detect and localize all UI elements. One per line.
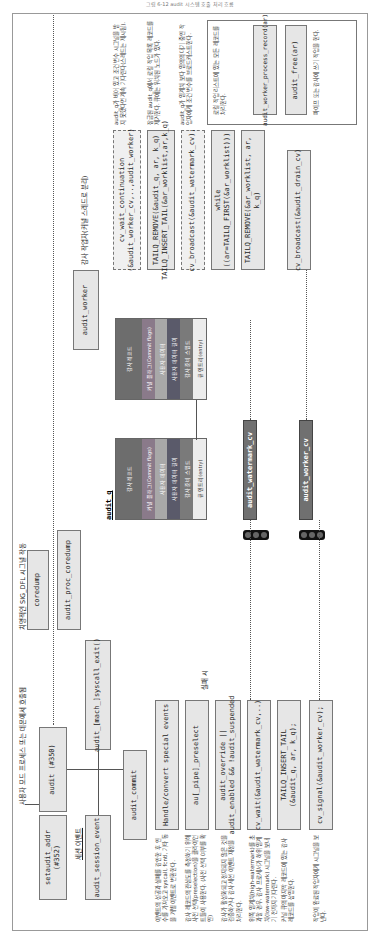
cv-signal-worker-box: cv_signal(&audit_worker_cv); [309,700,333,830]
audit-flow-diagram: 사용자 모드 프로세스 또는 데몬에서 호출됨 setaudit_addr (#… [12,13,368,931]
audit-worker-box: audit_worker [73,270,99,350]
audit-proc-coredump-box: audit_proc_coredump [57,530,81,630]
note-broadcast: audit_q가 임계치 보다 임의의 대기 중인 작업자에게 조건 변수를 브… [179,20,194,125]
tailq-insert-tail-box: TAILQ_INSERT_TAIL (&audit_q, ar, k_q); [277,700,301,830]
note-handle: 이벤트의 성공과 실패를 감안한 후 인수를 가져오고 syscall, fcn… [155,834,177,922]
page-header: 그림 6-12 audit 시스템 호출 처리 흐름 [110,0,270,5]
note-watermark: 위쪽 임계치(high-watermark)를 초과할 경우, 감사 프로세서가… [249,834,279,922]
note-insert: 커널 큐의 마지막 레코드에 있는 감사 레코드를 삽입한다. [281,834,296,922]
audit-override-box: audit_override || audit_enabled && !audi… [215,700,241,830]
audit-mach-syscall-exit-box: audit_[mach_]syscall_exit() [85,640,111,750]
process-frame [207,20,357,125]
cv-wait-watermark-box: cv_wait(&audit_watermark_cv,..) [247,700,271,830]
setaudit-addr-box: setaudit_addr (#352) [39,815,67,900]
audit-q-record-2: 감사 레코드 커널 플래그(Commit flags) 사용자 데이터 사용자 … [115,318,207,400]
session-label: 세션 이벤트 [73,828,83,860]
coredump-box: coredump [27,550,49,630]
cv-broadcast-drain-box: cv_broadcast(&audit_drain_cv) [287,150,311,270]
worker-label: 감사 작업자(커널 스레드로 분리) [79,176,89,265]
note-signal: 작업이 완료된 작업자에게 시그널을 보낸다. [313,834,328,922]
tailq-remove-worklist-box: TAILQ_REMOVE(&ar_worklist, ar, k_q) [241,130,265,270]
entry-label: 사용자 모드 프로세스 또는 데몬에서 호출됨 [17,687,27,805]
cv-wait-continuation-box: cv_wait_continuation (&audit_worker_cv,.… [113,130,141,270]
audit-q-title: audit_q [105,490,113,520]
note-preselect: 감사 레코드의 관심도를 측정하기 위해 사전 선택(preselection)… [185,834,215,922]
traffic-light-icon [243,530,269,540]
note-remove-insert: 잠금된 audit_q에서 로컬 작업 목록 레코드를 제거한다. 큐에는 워치… [147,20,162,125]
audit-worker-process-record-box: audit_worker_process_record(ar) [253,25,277,115]
fail-label: 실패 시 [199,670,209,690]
note-override: 감사가 활성화되고 정지되지 않은 것을 검증하거나 감사 세션 이벤트 재정을… [221,834,243,922]
audit-box: audit (#350) [39,727,67,812]
au-pipe-preselect-box: au[_pipe]_preselect [185,700,209,830]
while-loop-box: while ((ar=TAILQ_FIRST(&ar_worklist))) [211,130,235,270]
note-continuation: audit_q가 비어 있고 조건 변수 시그널을 받지 못했다면 계속 기다린… [113,20,128,125]
handle-events-box: Handle/convert special events [155,700,179,830]
traffic-light-icon [299,530,325,540]
sigdfl-label: 치명적인 SIG_DFL 시그널 작동 [17,543,27,630]
audit-worker-cv-box: audit_worker_cv [299,420,313,520]
tailq-remove-insert-box: TAILQ_REMOVE(&audit_q, ar, k_q) TAILQ_IN… [147,130,175,270]
audit-watermark-cv-box: audit_watermark_cv [243,420,257,520]
audit-session-event-box: audit_session_event [85,815,111,900]
note-while: 로컬 작업 리스트에 있는 모든 레코드를 처리한다. [213,25,228,115]
cv-broadcast-watermark-box: cv_broadcast(&audit_watermark_cv); [181,130,205,270]
audit-free-box: audit_free(ar) [285,25,307,115]
note-process: 파이프 또는 감사에 쓰기 작업을 한다. [313,25,320,115]
audit-q-record-1: 감사 레코드 커널 플래그(Commit flags) 사용자 데이터 사용자 … [115,438,207,520]
audit-commit-box: audit_commit [123,750,147,840]
